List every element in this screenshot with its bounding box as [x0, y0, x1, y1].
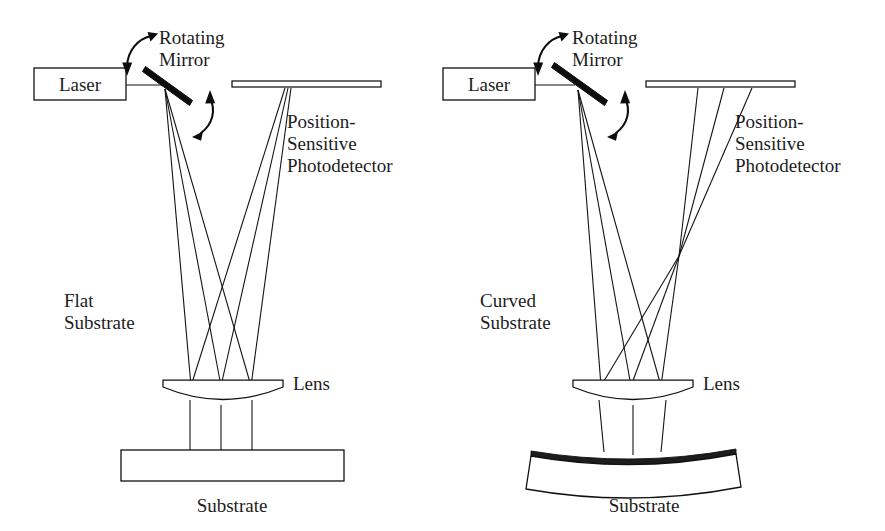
- rotating-mirror-label-line1: Rotating: [159, 27, 225, 48]
- rotating-mirror-label-line2: Mirror: [159, 49, 210, 70]
- rotating-mirror-label-line2: Mirror: [572, 49, 623, 70]
- photodetector-label-line2: Sensitive: [735, 133, 805, 154]
- lens-label: Lens: [703, 373, 740, 394]
- substrate-caption: Substrate: [197, 495, 268, 516]
- photodetector-bar: [232, 81, 381, 87]
- photodetector-label-line3: Photodetector: [287, 155, 393, 176]
- substrate-type-label-line1: Flat: [64, 290, 94, 311]
- laser-label: Laser: [59, 74, 102, 95]
- flat-substrate-body: [121, 450, 344, 481]
- substrate-caption: Substrate: [609, 495, 680, 516]
- substrate-type-label-line2: Substrate: [64, 312, 135, 333]
- photodetector-label-line3: Photodetector: [735, 155, 841, 176]
- substrate-type-label-line2: Substrate: [480, 312, 551, 333]
- photodetector-bar: [646, 81, 795, 87]
- substrate-type-label-line1: Curved: [480, 290, 536, 311]
- photodetector-label-line1: Position-: [287, 111, 356, 132]
- figure-root: Laser Rotating Mirror Position- Sensitiv…: [0, 0, 885, 531]
- lens-label: Lens: [293, 373, 330, 394]
- rotating-mirror-label-line1: Rotating: [572, 27, 638, 48]
- photodetector-label-line2: Sensitive: [287, 133, 357, 154]
- optical-diagram: Laser Rotating Mirror Position- Sensitiv…: [0, 0, 885, 531]
- photodetector-label-line1: Position-: [735, 111, 804, 132]
- laser-label: Laser: [468, 74, 511, 95]
